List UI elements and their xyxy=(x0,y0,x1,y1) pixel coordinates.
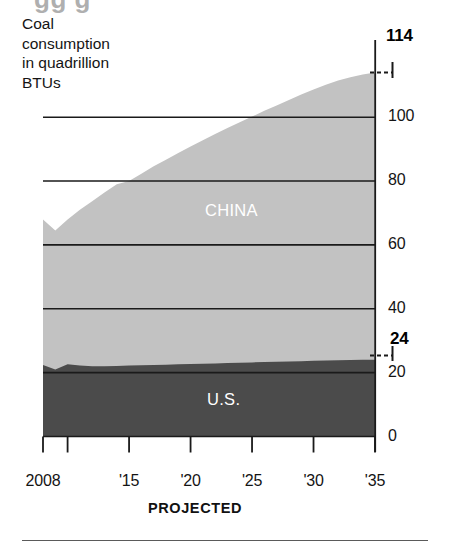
x-tick-marks-group xyxy=(43,437,375,453)
y-tick-label-80: 80 xyxy=(388,171,405,189)
x-tick-label-2030: '30 xyxy=(303,472,323,490)
y-tick-label-20: 20 xyxy=(388,363,405,381)
x-tick-label-2035: '35 xyxy=(365,472,385,490)
bottom-divider-rule xyxy=(22,540,428,541)
projected-footnote: PROJECTED xyxy=(0,500,390,516)
y-tick-label-100: 100 xyxy=(388,107,414,125)
coal-consumption-chart-figure: gg g Coal consumption in quadrillion BTU… xyxy=(0,0,450,555)
x-tick-label-2008: 2008 xyxy=(26,472,61,490)
y-tick-label-60: 60 xyxy=(388,235,405,253)
y-tick-label-0: 0 xyxy=(388,427,397,445)
callout-us-24: 24 xyxy=(390,329,409,349)
series-label-us: U.S. xyxy=(207,390,240,409)
stacked-area-series-group xyxy=(43,73,375,437)
x-tick-label-2020: '20 xyxy=(180,472,200,490)
series-label-china: CHINA xyxy=(205,201,258,220)
x-tick-label-2015: '15 xyxy=(119,472,139,490)
y-tick-label-40: 40 xyxy=(388,299,405,317)
callout-total-114: 114 xyxy=(386,26,413,46)
x-tick-label-2025: '25 xyxy=(242,472,262,490)
